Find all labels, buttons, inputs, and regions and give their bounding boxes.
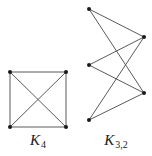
k32-edge-l2-r1 bbox=[89, 37, 144, 65]
k4-label: K4 bbox=[30, 133, 46, 148]
k32-edge-l3-r1 bbox=[89, 37, 144, 120]
k4-vertex-d bbox=[64, 125, 68, 129]
k32-edges bbox=[89, 9, 144, 120]
k4-vertex-c bbox=[8, 125, 12, 129]
k32-vertices bbox=[87, 7, 146, 122]
k32-vertex-l2 bbox=[87, 63, 91, 67]
k32-label: K3,2 bbox=[104, 133, 128, 148]
k4-graph bbox=[8, 70, 68, 129]
k4-edges bbox=[10, 72, 66, 127]
k32-label-subscript: 3,2 bbox=[115, 139, 128, 150]
k4-vertex-b bbox=[64, 70, 68, 74]
k32-edge-l3-r2 bbox=[89, 93, 144, 120]
graph-diagram-canvas bbox=[0, 0, 152, 156]
k4-vertex-a bbox=[8, 70, 12, 74]
k32-label-name: K bbox=[104, 132, 114, 148]
k32-vertex-l3 bbox=[87, 118, 91, 122]
k32-edge-l1-r1 bbox=[89, 9, 144, 37]
k32-vertex-l1 bbox=[87, 7, 91, 11]
k4-label-name: K bbox=[30, 132, 40, 148]
k4-label-subscript: 4 bbox=[41, 139, 46, 150]
k32-vertex-r1 bbox=[142, 35, 146, 39]
k32-graph bbox=[87, 7, 146, 122]
k32-vertex-r2 bbox=[142, 91, 146, 95]
